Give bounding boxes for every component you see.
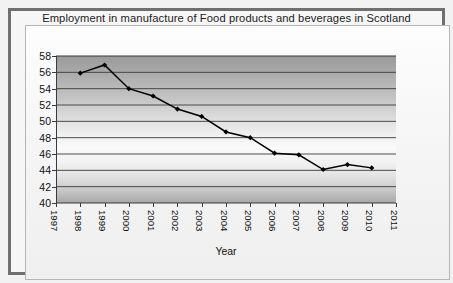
x-axis-tick-label: 2003	[194, 210, 205, 231]
x-axis-tick-label: 1997	[49, 210, 60, 231]
y-axis-tick-label: 56	[39, 66, 51, 78]
x-axis-tick-label: 2010	[364, 210, 375, 231]
x-axis-tick-mark	[80, 203, 81, 207]
chart-title: Employment in manufacture of Food produc…	[0, 12, 453, 24]
y-axis-tick-label: 52	[39, 99, 51, 111]
x-axis-tick-mark	[129, 203, 130, 207]
y-axis-tick-label: 58	[39, 50, 51, 62]
x-axis-tick-label: 2001	[146, 210, 157, 231]
x-axis-tick-label: 2011	[389, 210, 400, 231]
x-axis-tick-mark	[105, 203, 106, 207]
x-axis-tick-label: 2004	[219, 210, 230, 231]
x-axis-tick-mark	[153, 203, 154, 207]
x-axis-tick-mark	[275, 203, 276, 207]
x-axis-tick-label: 2008	[316, 210, 327, 231]
x-axis-tick-mark	[202, 203, 203, 207]
x-axis-labels: 1997199819992000200120022003200420052006…	[56, 56, 396, 203]
plot-area: 40424446485052545658 1997199819992000200…	[56, 56, 396, 203]
x-axis-tick-label: 2009	[340, 210, 351, 231]
y-axis-tick-label: 46	[39, 148, 51, 160]
x-axis-tick-mark	[299, 203, 300, 207]
x-axis-tick-mark	[56, 203, 57, 207]
chart-screenshot: Employment in manufacture of Food produc…	[0, 0, 453, 283]
x-axis-tick-mark	[347, 203, 348, 207]
x-axis-tick-label: 2007	[291, 210, 302, 231]
y-axis-tick-label: 50	[39, 115, 51, 127]
x-axis-tick-mark	[250, 203, 251, 207]
x-axis-tick-mark	[177, 203, 178, 207]
x-axis-tick-mark	[372, 203, 373, 207]
x-axis-tick-mark	[226, 203, 227, 207]
x-axis-tick-label: 1999	[97, 210, 108, 231]
y-axis-tick-label: 48	[39, 132, 51, 144]
x-axis-tick-label: 1998	[73, 210, 84, 231]
x-axis-tick-label: 2006	[267, 210, 278, 231]
x-axis-title: Year	[56, 245, 396, 257]
x-axis-tick-mark	[396, 203, 397, 207]
x-axis-tick-label: 2002	[170, 210, 181, 231]
y-axis-tick-label: 44	[39, 164, 51, 176]
x-axis-tick-mark	[323, 203, 324, 207]
y-axis-tick-label: 54	[39, 83, 51, 95]
x-axis-tick-label: 2005	[243, 210, 254, 231]
y-axis-tick-label: 42	[39, 181, 51, 193]
x-axis-tick-label: 2000	[121, 210, 132, 231]
y-axis-tick-label: 40	[39, 197, 51, 209]
